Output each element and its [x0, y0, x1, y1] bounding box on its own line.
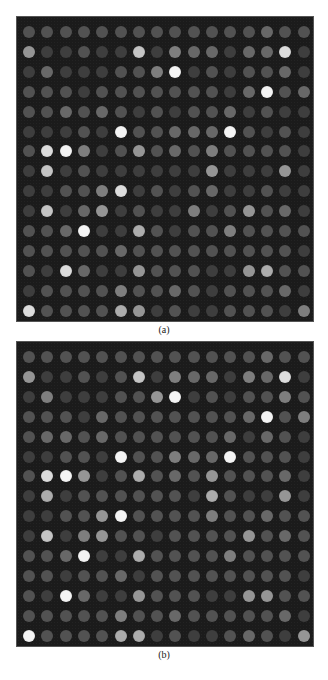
- array-spot: [115, 391, 127, 403]
- array-spot: [261, 185, 273, 197]
- array-spot: [96, 165, 108, 177]
- array-spot: [243, 126, 255, 138]
- array-spot: [298, 411, 310, 423]
- array-spot: [169, 470, 181, 482]
- array-spot: [151, 185, 163, 197]
- array-spot: [78, 530, 90, 542]
- array-spot: [151, 530, 163, 542]
- array-spot: [115, 46, 127, 58]
- array-spot: [60, 86, 72, 98]
- array-spot: [298, 391, 310, 403]
- array-spot: [23, 26, 35, 38]
- array-spot: [169, 530, 181, 542]
- array-spot: [279, 86, 291, 98]
- array-spot: [243, 285, 255, 297]
- array-spot: [96, 351, 108, 363]
- array-spot: [169, 411, 181, 423]
- array-spot: [224, 371, 236, 383]
- array-spot: [151, 26, 163, 38]
- array-spot: [115, 431, 127, 443]
- array-spot: [206, 371, 218, 383]
- array-spot: [169, 46, 181, 58]
- array-spot: [96, 305, 108, 317]
- array-spot: [206, 630, 218, 642]
- array-spot: [279, 46, 291, 58]
- array-spot: [78, 285, 90, 297]
- array-spot: [279, 391, 291, 403]
- array-spot: [169, 106, 181, 118]
- array-spot: [60, 165, 72, 177]
- array-spot: [169, 245, 181, 257]
- array-spot: [41, 145, 53, 157]
- array-spot: [78, 371, 90, 383]
- array-spot: [115, 550, 127, 562]
- array-spot: [279, 126, 291, 138]
- array-spot: [224, 46, 236, 58]
- array-spot: [298, 265, 310, 277]
- array-spot: [151, 126, 163, 138]
- array-spot: [261, 225, 273, 237]
- array-spot: [279, 490, 291, 502]
- array-spot: [224, 490, 236, 502]
- array-spot: [60, 451, 72, 463]
- array-spot: [151, 451, 163, 463]
- array-spot: [41, 265, 53, 277]
- array-spot: [243, 431, 255, 443]
- array-spot: [279, 510, 291, 522]
- array-spot: [60, 46, 72, 58]
- array-spot: [243, 630, 255, 642]
- array-spot: [169, 165, 181, 177]
- array-spot: [23, 451, 35, 463]
- array-spot: [78, 205, 90, 217]
- array-spot: [206, 126, 218, 138]
- array-spot: [206, 570, 218, 582]
- array-spot: [206, 205, 218, 217]
- array-spot: [279, 590, 291, 602]
- array-spot: [261, 126, 273, 138]
- array-spot: [23, 305, 35, 317]
- array-spot: [261, 285, 273, 297]
- array-spot: [169, 510, 181, 522]
- array-spot: [41, 46, 53, 58]
- array-spot: [206, 185, 218, 197]
- array-spot: [133, 411, 145, 423]
- array-spot: [188, 590, 200, 602]
- array-spot: [96, 265, 108, 277]
- array-spot: [279, 570, 291, 582]
- array-spot: [224, 205, 236, 217]
- array-spot: [96, 66, 108, 78]
- array-spot: [96, 86, 108, 98]
- array-spot: [261, 46, 273, 58]
- array-spot: [115, 305, 127, 317]
- array-spot: [279, 305, 291, 317]
- array-spot: [115, 185, 127, 197]
- array-spot: [133, 305, 145, 317]
- array-spot: [41, 431, 53, 443]
- array-spot: [133, 630, 145, 642]
- array-spot: [41, 26, 53, 38]
- array-spot: [151, 351, 163, 363]
- array-spot: [243, 86, 255, 98]
- array-spot: [298, 630, 310, 642]
- array-spot: [188, 351, 200, 363]
- array-spot: [60, 570, 72, 582]
- array-spot: [96, 431, 108, 443]
- array-spot: [60, 391, 72, 403]
- array-spot: [188, 431, 200, 443]
- array-spot: [60, 431, 72, 443]
- array-spot: [224, 590, 236, 602]
- array-spot: [224, 351, 236, 363]
- array-spot: [188, 470, 200, 482]
- array-spot: [188, 145, 200, 157]
- array-spot: [96, 530, 108, 542]
- array-spot: [78, 391, 90, 403]
- array-spot: [261, 371, 273, 383]
- array-spot: [261, 265, 273, 277]
- array-spot: [115, 285, 127, 297]
- array-spot: [96, 245, 108, 257]
- array-spot: [279, 205, 291, 217]
- array-spot: [224, 470, 236, 482]
- array-spot: [96, 26, 108, 38]
- array-spot: [261, 590, 273, 602]
- array-spot: [151, 205, 163, 217]
